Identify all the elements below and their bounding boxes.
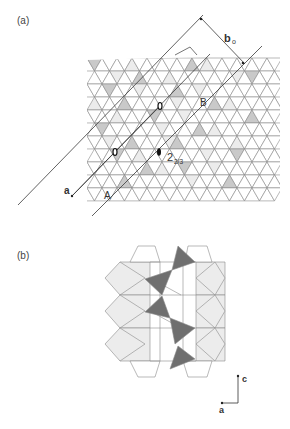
c-axis-arrow	[237, 375, 239, 377]
a-axis-label: a	[64, 185, 70, 196]
glide-symbol-lower	[113, 149, 117, 156]
glide-symbol-upper	[158, 103, 162, 110]
pentagon-top-left	[130, 246, 160, 262]
a-axis-arrow-b	[221, 402, 223, 404]
b-axis-subscript: o	[232, 38, 236, 45]
screw-axis-symbol	[157, 148, 161, 156]
panel-b-polyhedra	[105, 246, 225, 377]
b-axis-label: b	[224, 32, 231, 44]
a-axis-label-b: a	[219, 405, 225, 415]
screw-axis-subscript: 2/3	[174, 158, 183, 165]
pentagon-bottom-right	[183, 361, 212, 377]
b-axis-end-dot	[242, 62, 245, 65]
c-axis-label: c	[242, 374, 247, 384]
point-A-label: A	[104, 190, 111, 201]
panel-b-axes	[222, 376, 238, 403]
pentagon-bottom-left	[130, 361, 160, 377]
b-axis-start-dot	[200, 18, 203, 21]
panel-a-lattice	[80, 58, 290, 201]
point-B-label: B	[200, 97, 207, 108]
screw-axis-label: 2	[167, 151, 173, 163]
tetrahedron-dark	[170, 318, 195, 344]
a-axis-dot	[71, 195, 73, 197]
figure-canvas: b o a A B 2 2/3 c a	[0, 0, 289, 429]
